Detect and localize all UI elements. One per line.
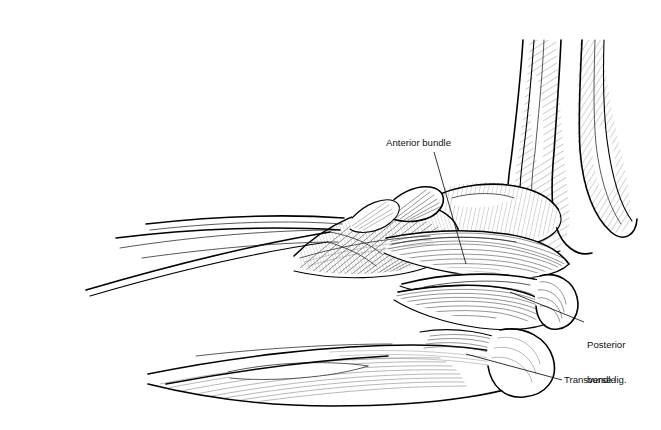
label-posterior-bundle: Posterior bundle <box>587 316 625 408</box>
label-transverse-ligament: Transverse lig. <box>564 374 627 386</box>
elbow-mcl-drawing: .o { fill:none; stroke:#000; stroke-widt… <box>0 0 661 430</box>
anatomical-illustration: .o { fill:none; stroke:#000; stroke-widt… <box>0 0 661 430</box>
figure-page: FIGURE 59–2.Anatomy of the medial collat… <box>0 0 661 430</box>
label-posterior-bundle-line1: Posterior <box>587 339 625 351</box>
label-anterior-bundle: Anterior bundle <box>386 137 451 149</box>
